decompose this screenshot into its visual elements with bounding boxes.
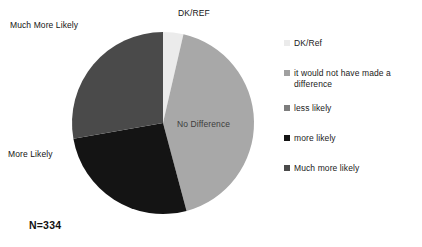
- legend-item[interactable]: Much more likely: [284, 163, 420, 174]
- callout-much-more-likely: Much More Likely: [10, 20, 78, 30]
- slice-label-no-difference: No Difference: [177, 119, 230, 129]
- chart-legend: DK/Refit would not have made a differenc…: [284, 38, 420, 187]
- legend-item-label: more likely: [294, 133, 336, 144]
- legend-item-label: it would not have made a difference: [294, 68, 420, 90]
- callout-dk-ref: DK/REF: [178, 8, 210, 18]
- callout-more-likely: More Likely: [8, 149, 53, 159]
- legend-item[interactable]: DK/Ref: [284, 38, 420, 49]
- legend-item-label: Much more likely: [294, 163, 359, 174]
- legend-item[interactable]: it would not have made a difference: [284, 68, 420, 90]
- pie-plot-area: Much More Likely DK/REF More Likely No D…: [0, 0, 275, 247]
- pie-chart-figure: Much More Likely DK/REF More Likely No D…: [0, 0, 422, 247]
- sample-size-caption: N=334: [29, 219, 61, 231]
- legend-swatch-icon: [284, 165, 290, 171]
- legend-swatch-icon: [284, 70, 290, 76]
- pie-svg: [0, 0, 275, 247]
- legend-item-label: DK/Ref: [294, 38, 322, 49]
- pie-slice-much-more-likely: [72, 32, 163, 139]
- legend-swatch-icon: [284, 105, 290, 111]
- legend-item-label: less likely: [294, 103, 331, 114]
- legend-item[interactable]: more likely: [284, 133, 420, 144]
- legend-swatch-icon: [284, 135, 290, 141]
- legend-swatch-icon: [284, 40, 290, 46]
- legend-item[interactable]: less likely: [284, 103, 420, 114]
